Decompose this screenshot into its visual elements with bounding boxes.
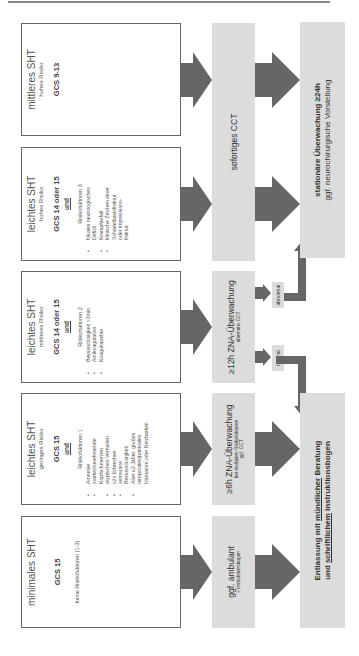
category-title: minimales SHT <box>26 517 37 627</box>
connector-label: und <box>63 394 70 504</box>
action-box-zna-12h: ≥12h ZNA-Überwachung alternativ CCT <box>212 271 255 383</box>
risk-factor-list: Bewusstlosigkeit >1min Antikoagulation K… <box>85 272 104 382</box>
outcome-line-1: Entlassung mit mündlicher Beratung <box>313 440 323 580</box>
outcome-box-discharge: Entlassung mit mündlicher Beratung und s… <box>300 393 345 628</box>
risk-factors-heading: Risikofaktoren 2 <box>77 272 83 382</box>
gcs-label: GCS 15 <box>53 517 62 627</box>
text: Instruktionsbogen <box>323 441 332 513</box>
connector-label: und <box>63 148 70 260</box>
category-box-mild-high-risk: leichtes SHT hohes Risiko GCS 14 oder 15… <box>21 147 181 261</box>
outcome-box-inpatient: stationäre Überwachung ≥24h ggf. neuroch… <box>300 22 345 258</box>
risk-factors-heading: Risikofaktoren 3 <box>77 148 83 260</box>
frame-line <box>8 1 330 3</box>
arrow-down-icon <box>255 176 300 232</box>
arrow-down-icon <box>181 52 212 108</box>
arrow-down-icon <box>255 544 300 600</box>
risk-factors-heading: Risikofaktoren 1 <box>77 394 83 504</box>
risk-factor-list: Amnesie starke/zunehmende Kopfschmerzen … <box>85 394 149 504</box>
arrow-down-icon <box>255 348 271 366</box>
risk-label: geringes Risiko <box>38 394 44 504</box>
action-sublabel: + Instruktionsbogen <box>236 551 241 593</box>
category-box-mild-low-risk: leichtes SHT geringes Risiko GCS 15 und … <box>21 393 181 505</box>
risk-label: hohes Risiko <box>38 24 44 135</box>
action-sublabel: ggf. CCT <box>239 439 244 458</box>
text: Entlassung mit <box>313 521 322 581</box>
risk-label: mittleres Risiko <box>38 272 44 382</box>
action-label: sofortiges CCT <box>229 114 239 171</box>
arrow-down-icon <box>181 421 212 477</box>
category-title: mittleres SHT <box>26 24 37 135</box>
action-sublabel: alternativ CCT <box>236 312 241 343</box>
category-title: leichtes SHT <box>26 394 37 504</box>
text: mündlicher <box>313 478 322 521</box>
action-box-ambulant: ggf. ambulant + Instruktionsbogen <box>212 516 255 628</box>
arrow-down-icon <box>255 284 271 302</box>
risk-factor-list: fokales neurologisches Defizit Krampfanf… <box>85 148 130 260</box>
category-box-mild-medium-risk: leichtes SHT mittleres Risiko GCS 14 ode… <box>21 271 181 383</box>
gcs-label: GCS 14 oder 15 <box>52 272 61 382</box>
arrow-down-icon <box>181 176 212 232</box>
action-label: ≥6h ZNA-Überwachung <box>224 405 234 494</box>
connector-label: und <box>63 272 70 382</box>
flowchart: minimales SHT GCS 15 keine Risikofaktore… <box>0 0 359 656</box>
result-label: abnormal <box>275 285 281 306</box>
text: schriftlichem <box>323 513 332 563</box>
action-label: ggf. ambulant <box>226 546 236 598</box>
arrow-down-icon <box>255 52 300 108</box>
risk-label: hohes Risiko <box>38 148 44 260</box>
category-title: leichtes SHT <box>26 148 37 260</box>
action-label: ≥12h ZNA-Überwachung <box>226 280 236 374</box>
outcome-line-2: und schriftlichem Instruktionsbogen <box>323 441 333 580</box>
arrow-down-icon <box>181 299 212 355</box>
category-box-moderate-sht: mittleres SHT hohes Risiko GCS 9-13 <box>21 23 181 136</box>
category-note: keine Risikofaktoren (1-3) <box>74 517 80 627</box>
action-box-zna-6h: ≥6h ZNA-Überwachung bei multiplen Risiko… <box>212 393 255 505</box>
text: und <box>323 563 332 580</box>
gcs-label: GCS 15 <box>52 394 61 504</box>
risk-factor: Hämatom oder Reizbarkeit <box>143 398 149 496</box>
outcome-line-2: ggf. neurochirurgische Vorstellung <box>323 80 333 201</box>
category-title: leichtes SHT <box>26 272 37 382</box>
action-box-immediate-cct: sofortiges CCT <box>212 23 255 261</box>
text: Beratung <box>313 440 322 477</box>
gcs-label: GCS 9-13 <box>52 24 61 135</box>
outcome-line-1: stationäre Überwachung ≥24h <box>313 83 323 197</box>
arrow-down-icon <box>255 421 300 477</box>
risk-factor: fraktur <box>123 152 129 252</box>
category-box-minimal-sht: minimales SHT GCS 15 keine Risikofaktore… <box>21 516 181 628</box>
gcs-label: GCS 14 oder 15 <box>52 148 61 260</box>
risk-factor: Koagulopathie <box>98 276 104 374</box>
arrow-down-icon <box>181 544 212 600</box>
result-abnormal: abnormal <box>272 282 284 308</box>
